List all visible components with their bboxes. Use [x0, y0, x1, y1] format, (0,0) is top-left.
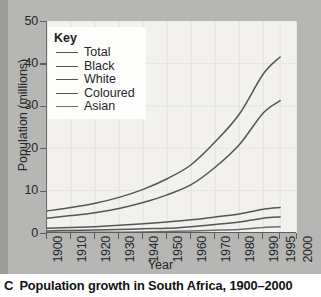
legend-line-swatch — [56, 79, 78, 80]
y-tick — [40, 63, 46, 64]
figure-caption: C Population growth in South Africa, 190… — [0, 274, 321, 297]
caption-text: Population growth in South Africa, 1900–… — [19, 278, 292, 293]
x-axis-title: Year — [0, 258, 321, 272]
legend-item: Asian — [54, 100, 141, 114]
y-tick — [40, 21, 46, 22]
legend-line-swatch — [56, 106, 78, 107]
y-tick — [40, 106, 46, 107]
y-tick — [40, 148, 46, 149]
legend-item-label: White — [84, 73, 116, 86]
legend-item: Black — [54, 60, 141, 74]
legend-item-label: Asian — [84, 100, 115, 113]
legend-item: White — [54, 73, 141, 87]
legend-item-label: Black — [84, 60, 115, 73]
y-tick-label: 50 — [24, 15, 38, 27]
y-tick — [40, 191, 46, 192]
legend-line-swatch — [56, 66, 78, 67]
caption-letter: C — [4, 278, 13, 293]
figure-container: 01020304050 Population (millions) 190019… — [0, 0, 321, 297]
y-tick — [40, 233, 46, 234]
legend-item: Coloured — [54, 87, 141, 101]
legend-item-label: Total — [84, 46, 110, 59]
legend-items: TotalBlackWhiteColouredAsian — [54, 46, 141, 114]
y-axis-ticks — [40, 21, 47, 233]
legend-title: Key — [54, 31, 141, 45]
series-line-white — [47, 208, 280, 229]
legend-item-label: Coloured — [84, 87, 135, 100]
legend-line-swatch — [56, 52, 78, 53]
legend: Key TotalBlackWhiteColouredAsian — [48, 27, 146, 119]
legend-line-swatch — [56, 93, 78, 94]
legend-item: Total — [54, 46, 141, 60]
y-axis-title: Population (millions) — [16, 30, 30, 200]
